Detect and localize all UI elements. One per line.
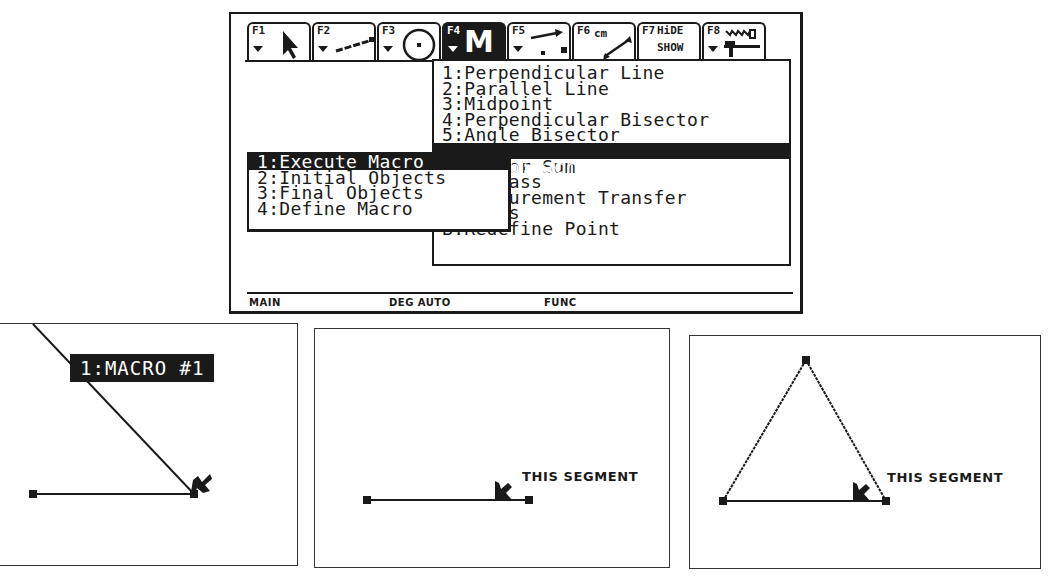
dropdown-arrow-icon	[383, 46, 393, 52]
dropdown-arrow-icon	[318, 46, 328, 52]
fkey-label: F1	[252, 25, 265, 37]
fkey-label: F7	[642, 25, 655, 37]
macro-m-icon: M	[464, 24, 494, 60]
fkey-label: F5	[512, 25, 525, 37]
status-graph: FUNC	[544, 297, 577, 308]
tool-f7-display[interactable]: F7 HiDE SHOW	[637, 22, 701, 60]
tool-f4-constructions[interactable]: F4 M	[442, 22, 506, 60]
submenu-arrow-icon: ▶	[769, 174, 775, 190]
tool-f8-draw[interactable]: F8	[702, 22, 766, 60]
segment-drawing	[315, 329, 671, 569]
menu-item-angle-bisector[interactable]: 5:Angle Bisector	[434, 127, 789, 143]
tool-f6-measurement[interactable]: F6 cm	[572, 22, 636, 60]
this-segment-label: THIS SEGMENT	[522, 469, 638, 484]
segment-drawing	[0, 324, 299, 567]
status-mode: MAIN	[249, 297, 281, 308]
measure-icon	[527, 27, 571, 61]
line-segment-icon	[332, 27, 376, 61]
status-divider	[247, 292, 793, 294]
dropdown-arrow-icon	[708, 46, 718, 52]
fkey-label: F4	[447, 25, 460, 37]
hide-label: HiDE	[657, 25, 684, 37]
triangle-drawing	[690, 336, 1042, 570]
pencil-cursor-icon	[495, 481, 512, 500]
show-label: SHOW	[657, 42, 684, 54]
menu-item-label: 6:Macro Construction	[509, 156, 732, 177]
tool-f3-curves[interactable]: F3	[377, 22, 441, 60]
dropdown-arrow-icon	[253, 46, 263, 52]
tool-f5-transformations[interactable]: F5	[507, 22, 571, 60]
tool-f1-pointer[interactable]: F1	[247, 22, 311, 60]
panel-triangle-result: THIS SEGMENT	[689, 335, 1041, 569]
pointer-arrow-icon	[267, 27, 307, 61]
fkey-label: F6	[577, 25, 590, 37]
dropdown-arrow-icon	[448, 46, 458, 52]
submenu-item-define-macro[interactable]: 4:Define Macro	[249, 201, 508, 217]
toolbar: F1 F2 F3 F4 M F5 F6 cm	[247, 22, 767, 62]
fkey-label: F3	[382, 25, 395, 37]
fkey-label: F2	[317, 25, 330, 37]
panel-select-segment: THIS SEGMENT	[314, 328, 670, 568]
fkey-label: F8	[707, 25, 720, 37]
macro-submenu: 1:Execute Macro 2:Initial Objects 3:Fina…	[247, 152, 511, 232]
panel-execute-macro: 1:MACRO #1	[0, 323, 298, 566]
cropped-caption-fragment	[0, 0, 90, 6]
circle-icon	[397, 27, 441, 63]
status-angle: DEG AUTO	[389, 297, 451, 308]
dropdown-arrow-icon	[513, 46, 523, 52]
calculator-screen: F1 F2 F3 F4 M F5 F6 cm	[229, 12, 803, 314]
vector-cm-icon	[592, 27, 636, 61]
this-segment-label: THIS SEGMENT	[887, 470, 1003, 485]
pencil-cursor-icon	[853, 482, 870, 501]
tool-f2-lines[interactable]: F2	[312, 22, 376, 60]
hammer-saw-icon	[722, 27, 766, 61]
pencil-cursor-icon	[191, 474, 212, 494]
